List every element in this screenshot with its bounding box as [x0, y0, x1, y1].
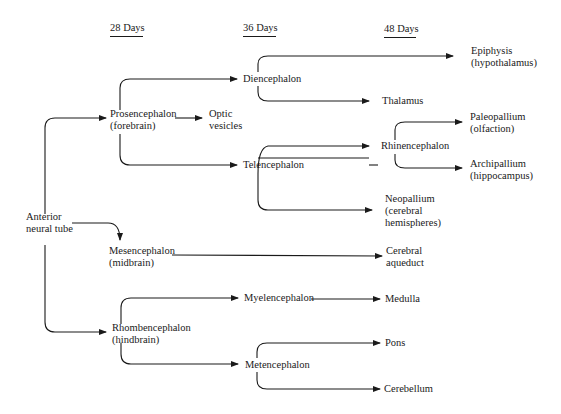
node-archipallium: Archipallium (hippocampus)	[470, 158, 533, 182]
node-line: Anterior	[26, 211, 73, 223]
node-prosencephalon: Prosencephalon (forebrain)	[110, 108, 176, 132]
node-line: Cerebellum	[384, 383, 433, 395]
node-line: aqueduct	[386, 257, 424, 269]
node-optic-vesicles: Optic vesicles	[209, 108, 242, 132]
node-line: (cerebral	[385, 205, 441, 217]
node-paleopallium: Paleopallium (olfaction)	[470, 111, 525, 135]
node-line: Rhombencephalon	[112, 322, 191, 334]
node-line: Rhinencephalon	[381, 140, 449, 152]
node-line: (hippocampus)	[470, 170, 533, 182]
node-line: Optic	[209, 108, 242, 120]
node-rhinencephalon: Rhinencephalon	[381, 140, 449, 152]
node-line: Pons	[385, 337, 405, 349]
node-line: Cerebral	[386, 245, 424, 257]
node-line: neural tube	[26, 223, 73, 235]
brain-development-diagram: 28 Days 36 Days 48 Days Anterior neural …	[0, 0, 561, 414]
node-line: Archipallium	[470, 158, 533, 170]
node-line: Prosencephalon	[110, 108, 176, 120]
header-36-days: 36 Days	[243, 22, 278, 34]
node-line: hemispheres)	[385, 217, 441, 229]
node-line: Myelencephalon	[244, 292, 314, 304]
node-metencephalon: Metencephalon	[245, 359, 310, 371]
node-telencephalon: Telencephalon	[243, 159, 304, 171]
header-underline	[384, 37, 416, 38]
node-cerebellum: Cerebellum	[384, 383, 433, 395]
header-underline	[243, 36, 276, 37]
header-underline	[110, 36, 143, 37]
node-line: Paleopallium	[470, 111, 525, 123]
header-28-days: 28 Days	[110, 22, 145, 34]
node-line: (hindbrain)	[112, 334, 191, 346]
node-pons: Pons	[385, 337, 405, 349]
node-line: (hypothalamus)	[471, 57, 537, 69]
node-line: (midbrain)	[109, 257, 175, 269]
node-line: Mesencephalon	[109, 245, 175, 257]
node-medulla: Medulla	[385, 293, 420, 305]
node-line: vesicles	[209, 120, 242, 132]
node-line: Metencephalon	[245, 359, 310, 371]
node-line: Epiphysis	[471, 45, 537, 57]
node-myelencephalon: Myelencephalon	[244, 292, 314, 304]
node-line: Neopallium	[385, 193, 441, 205]
header-48-days: 48 Days	[384, 23, 419, 35]
node-diencephalon: Diencephalon	[243, 73, 301, 85]
node-thalamus: Thalamus	[382, 95, 423, 107]
node-cerebral-aqueduct: Cerebral aqueduct	[386, 245, 424, 269]
node-anterior-neural-tube: Anterior neural tube	[26, 211, 73, 235]
node-line: Diencephalon	[243, 73, 301, 85]
node-line: (olfaction)	[470, 123, 525, 135]
node-line: Telencephalon	[243, 159, 304, 171]
node-line: Medulla	[385, 293, 420, 305]
node-neopallium: Neopallium (cerebral hemispheres)	[385, 193, 441, 229]
node-mesencephalon: Mesencephalon (midbrain)	[109, 245, 175, 269]
node-line: (forebrain)	[110, 120, 176, 132]
node-epiphysis: Epiphysis (hypothalamus)	[471, 45, 537, 69]
node-rhombencephalon: Rhombencephalon (hindbrain)	[112, 322, 191, 346]
node-line: Thalamus	[382, 95, 423, 107]
